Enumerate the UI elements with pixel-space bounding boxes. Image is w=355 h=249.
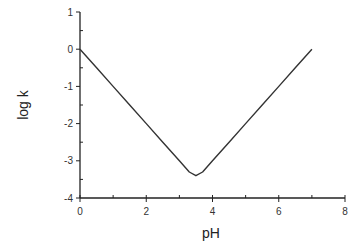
y-tick-label: -2	[64, 118, 73, 129]
x-axis-label: pH	[202, 225, 220, 241]
x-tick-label: 0	[77, 206, 83, 217]
x-tick-label: 8	[342, 206, 348, 217]
y-tick-label: -4	[64, 193, 73, 204]
x-tick-label: 2	[143, 206, 149, 217]
y-axis-label: log k	[15, 89, 31, 120]
x-tick-label: 4	[210, 206, 216, 217]
y-tick-label: -1	[64, 81, 73, 92]
y-tick-label: -3	[64, 155, 73, 166]
chart: 10-1-2-3-4 02468 log k pH	[0, 0, 355, 249]
y-tick-label: 0	[67, 44, 73, 55]
data-line	[80, 49, 312, 176]
x-tick-label: 6	[276, 206, 282, 217]
y-tick-label: 1	[67, 7, 73, 18]
